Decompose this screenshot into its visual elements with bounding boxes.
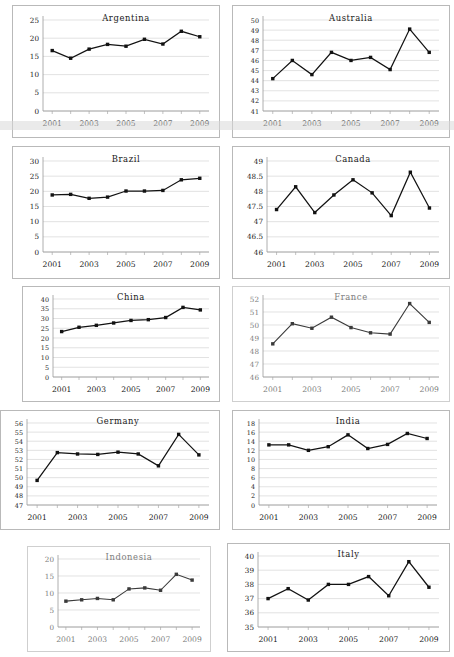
data-point-marker <box>56 451 59 454</box>
x-axis-tick-label: 2001 <box>52 385 71 394</box>
data-point-marker <box>294 185 297 188</box>
x-axis-tick-label: 2009 <box>190 260 209 269</box>
y-axis-tick-label: 5 <box>34 232 39 241</box>
data-point-marker <box>390 214 393 217</box>
chart-panel-germany: 4748495051525354555620012003200520072009… <box>0 410 220 530</box>
data-point-marker <box>347 583 350 586</box>
data-point-marker <box>291 59 294 62</box>
data-point-marker <box>143 38 146 41</box>
data-point-marker <box>267 443 270 446</box>
data-point-marker <box>369 56 372 59</box>
small-multiples-grid: 051015202520012003200520072009Argentina4… <box>0 0 454 657</box>
data-point-marker <box>287 443 290 446</box>
y-axis-tick-label: 47 <box>251 47 259 55</box>
data-point-marker <box>275 208 278 211</box>
y-axis-tick-label: 0 <box>34 248 39 257</box>
x-axis-tick-label: 2009 <box>420 119 439 128</box>
y-axis-tick-label: 43 <box>251 87 259 95</box>
line-chart-germany: 4748495051525354555620012003200520072009… <box>1 411 219 529</box>
data-point-marker <box>147 318 150 321</box>
data-point-marker <box>197 453 200 456</box>
x-axis-tick-label: 2005 <box>343 260 362 269</box>
x-axis-tick-label: 2003 <box>302 119 321 128</box>
data-point-marker <box>198 35 201 38</box>
data-point-marker <box>87 47 90 50</box>
y-axis-tick-label: 20 <box>41 335 49 343</box>
data-point-marker <box>96 597 99 600</box>
data-point-marker <box>77 326 80 329</box>
x-axis-tick-label: 2001 <box>43 119 62 128</box>
data-point-marker <box>112 321 115 324</box>
data-point-marker <box>327 583 330 586</box>
y-axis-tick-label: 56 <box>15 420 23 428</box>
y-axis-tick-label: 48 <box>250 347 260 356</box>
data-point-marker <box>408 27 411 30</box>
data-point-marker <box>95 324 98 327</box>
x-axis-tick-label: 2007 <box>379 635 398 644</box>
data-point-marker <box>161 189 164 192</box>
chart-title: India <box>336 416 361 426</box>
data-point-marker <box>69 193 72 196</box>
data-point-marker <box>143 189 146 192</box>
y-axis-tick-label: 46 <box>250 373 260 382</box>
y-axis-tick-label: 15 <box>41 344 49 352</box>
y-axis-tick-label: 2 <box>251 492 255 500</box>
data-point-marker <box>51 49 54 52</box>
data-point-marker <box>428 206 431 209</box>
x-axis-tick-label: 2009 <box>189 513 208 522</box>
x-axis-tick-label: 2007 <box>151 635 170 644</box>
y-axis-tick-label: 47.5 <box>247 202 263 211</box>
x-axis-tick-label: 2007 <box>378 513 397 522</box>
y-axis-tick-label: 48.5 <box>247 172 263 181</box>
x-axis-tick-label: 2007 <box>380 385 399 394</box>
y-axis-tick-label: 54 <box>15 438 23 446</box>
chart-title: Italy <box>337 549 359 559</box>
data-point-marker <box>64 599 67 602</box>
y-axis-tick-label: 6 <box>251 474 255 482</box>
y-axis-tick-label: 42 <box>251 97 259 105</box>
x-axis-tick-label: 2009 <box>190 119 209 128</box>
y-axis-tick-label: 10 <box>41 354 49 362</box>
x-axis-tick-label: 2009 <box>420 385 439 394</box>
x-axis-tick-label: 2003 <box>88 635 107 644</box>
chart-panel-australia: 4142434445464748495020012003200520072009… <box>232 5 450 138</box>
x-axis-tick-label: 2005 <box>119 635 138 644</box>
data-point-marker <box>349 326 352 329</box>
y-axis-tick-label: 38 <box>245 580 255 589</box>
y-axis-tick-label: 0 <box>49 623 54 632</box>
data-point-marker <box>60 330 63 333</box>
line-chart-argentina: 051015202520012003200520072009Argentina <box>13 6 219 137</box>
y-axis-tick-label: 37 <box>245 594 255 603</box>
y-axis-tick-label: 44 <box>251 77 259 85</box>
data-point-marker <box>286 587 289 590</box>
data-point-marker <box>427 586 430 589</box>
y-axis-tick-label: 15 <box>30 202 40 211</box>
x-axis-tick-label: 2003 <box>79 260 98 269</box>
y-axis-tick-label: 47 <box>254 217 264 226</box>
data-point-marker <box>271 342 274 345</box>
x-axis-tick-label: 2001 <box>56 635 75 644</box>
chart-title: France <box>334 292 367 302</box>
data-point-marker <box>307 598 310 601</box>
x-axis-tick-label: 2007 <box>380 119 399 128</box>
x-axis-tick-label: 2007 <box>149 513 168 522</box>
y-axis-tick-label: 18 <box>247 420 255 428</box>
data-series-line <box>52 178 200 198</box>
data-point-marker <box>199 308 202 311</box>
x-axis-tick-label: 2001 <box>43 260 62 269</box>
data-point-marker <box>266 597 269 600</box>
x-axis-tick-label: 2003 <box>87 385 106 394</box>
data-point-marker <box>428 51 431 54</box>
y-axis-tick-label: 14 <box>247 438 255 446</box>
x-axis-tick-label: 2009 <box>419 635 438 644</box>
y-axis-tick-label: 49 <box>251 27 259 35</box>
data-point-marker <box>330 316 333 319</box>
data-point-marker <box>349 59 352 62</box>
line-chart-italy: 35363738394020012003200520072009Italy <box>228 544 449 651</box>
y-axis-tick-label: 5 <box>45 364 49 372</box>
y-axis-tick-label: 30 <box>30 157 40 166</box>
y-axis-tick-label: 15 <box>30 52 40 61</box>
data-point-marker <box>313 211 316 214</box>
data-point-marker <box>327 445 330 448</box>
y-axis-tick-label: 46 <box>254 248 264 257</box>
